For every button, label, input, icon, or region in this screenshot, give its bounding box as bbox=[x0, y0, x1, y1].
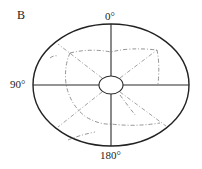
guide-lower-right bbox=[120, 92, 166, 126]
angle-label-90: 90° bbox=[10, 78, 25, 90]
contour-top bbox=[70, 49, 157, 53]
contour-fragment-left bbox=[50, 56, 58, 58]
contour-fragment-bottom bbox=[68, 132, 95, 140]
guide-upper-left bbox=[58, 44, 102, 78]
contour-curve bbox=[50, 49, 160, 140]
angle-label-0: 0° bbox=[105, 10, 115, 22]
contour-right bbox=[157, 50, 159, 84]
guide-upper-right bbox=[120, 50, 157, 78]
panel-label: B bbox=[17, 8, 25, 22]
center-ellipse bbox=[99, 76, 123, 94]
polar-diagram: B 0° 90° 180° bbox=[0, 0, 202, 169]
angle-label-180: 180° bbox=[100, 149, 121, 161]
